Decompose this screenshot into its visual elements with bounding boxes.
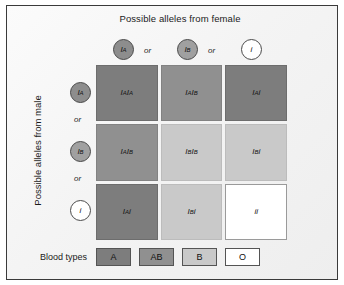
legend-swatch-b-label: B (197, 252, 203, 262)
genotype-part: i (258, 148, 260, 156)
legend-label: Blood types (40, 252, 87, 262)
legend-swatch-a-label: A (111, 252, 117, 262)
punnett-cell: IAi (96, 184, 158, 240)
legend-swatch-ab-label: AB (151, 252, 163, 262)
female-allele-3: i (241, 39, 262, 60)
genotype-part: i (258, 89, 260, 97)
top-axis-title: Possible alleles from female (60, 13, 300, 24)
genotype-part: i (256, 208, 258, 216)
punnett-cell: IAi (225, 65, 287, 121)
punnett-cell: IAIA (96, 65, 158, 121)
female-allele-3-base: i (251, 46, 253, 54)
punnett-cell: ii (225, 184, 287, 240)
left-axis-title: Possible alleles from male (32, 71, 43, 231)
blood-types-legend: Blood types A AB B O (40, 248, 268, 266)
female-or-1: or (144, 46, 151, 55)
female-allele-2: IB (177, 39, 198, 60)
punnett-cell: IAIB (96, 124, 158, 180)
punnett-cell: IBIB (161, 124, 223, 180)
male-allele-1: IA (70, 82, 91, 103)
genotype-part: i (129, 208, 131, 216)
punnett-cell: IBi (225, 124, 287, 180)
legend-swatch-o-label: O (239, 252, 246, 262)
male-allele-2: IB (70, 141, 91, 162)
punnett-cell: IBi (161, 184, 223, 240)
legend-swatch-b: B (182, 248, 217, 266)
male-or-1: or (74, 115, 81, 124)
punnett-grid: IAIAIAIBIAiIAIBIBIBIBiIAiIBiii (96, 65, 287, 240)
legend-swatch-a: A (96, 248, 131, 266)
genotype-part: i (194, 208, 196, 216)
male-allele-3: i (70, 200, 91, 221)
legend-swatch-o: O (225, 248, 260, 266)
female-allele-1: IA (113, 39, 134, 60)
male-allele-3-base: i (80, 207, 82, 215)
punnett-square-figure: Possible alleles from female Possible al… (0, 0, 344, 285)
female-or-2: or (208, 46, 215, 55)
male-or-2: or (74, 174, 81, 183)
punnett-cell: IAIB (161, 65, 223, 121)
legend-swatch-ab: AB (139, 248, 174, 266)
